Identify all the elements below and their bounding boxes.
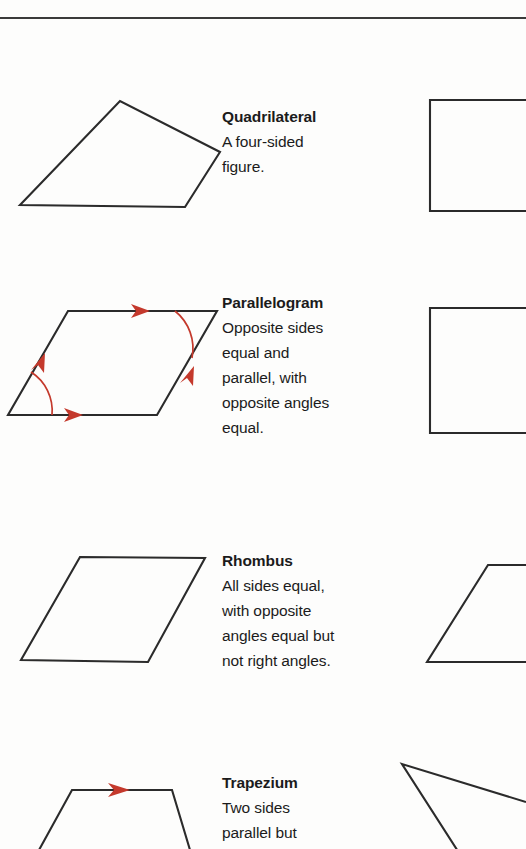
figure-trapezium — [0, 760, 250, 849]
figure-rectangle-1 — [380, 90, 526, 220]
desc-line: equal. — [222, 415, 374, 440]
text-block-trapezium: Trapezium Two sides parallel but — [222, 770, 374, 845]
rectangle-outline — [430, 100, 526, 211]
desc-line: A four-sided — [222, 129, 374, 154]
desc-line: opposite angles — [222, 390, 374, 415]
reference-page: Quadrilateral A four-sided figure. — [0, 0, 526, 849]
desc-line: parallel but — [222, 820, 374, 845]
desc-line: equal and — [222, 340, 374, 365]
text-block-rhombus: Rhombus All sides equal, with opposite a… — [222, 548, 374, 673]
desc-line: figure. — [222, 154, 374, 179]
term-parallelogram: Parallelogram — [222, 290, 374, 315]
term-trapezium: Trapezium — [222, 770, 374, 795]
term-rhombus: Rhombus — [222, 548, 374, 573]
desc-line: with opposite — [222, 598, 374, 623]
figure-quadrilateral — [0, 90, 250, 220]
figure-rhombus-right — [380, 545, 526, 675]
figure-rhombus — [0, 545, 250, 675]
angle-arc-bottom-left — [31, 372, 52, 415]
figure-rectangle-2 — [380, 290, 526, 450]
desc-line: parallel, with — [222, 365, 374, 390]
angle-arc-top-right — [175, 311, 193, 358]
figure-parallelogram — [0, 290, 250, 430]
rhombus-outline-partial — [427, 565, 526, 662]
desc-line: angles equal but — [222, 623, 374, 648]
quadrilateral-outline — [20, 101, 220, 207]
desc-line: All sides equal, — [222, 573, 374, 598]
desc-line: Opposite sides — [222, 315, 374, 340]
figure-triangle-right — [380, 760, 526, 849]
text-block-quadrilateral: Quadrilateral A four-sided figure. — [222, 104, 374, 179]
triangle-outline-partial — [402, 764, 526, 849]
term-quadrilateral: Quadrilateral — [222, 104, 374, 129]
desc-line: not right angles. — [222, 648, 374, 673]
desc-line: Two sides — [222, 795, 374, 820]
text-block-parallelogram: Parallelogram Opposite sides equal and p… — [222, 290, 374, 440]
rectangle-outline — [430, 308, 526, 433]
rhombus-outline — [21, 557, 205, 662]
header-rule — [0, 17, 526, 19]
single-arrow-right — [180, 366, 194, 386]
trapezium-outline-partial — [28, 790, 196, 849]
